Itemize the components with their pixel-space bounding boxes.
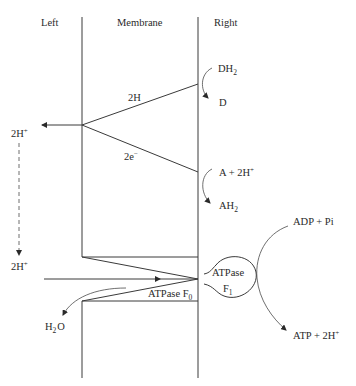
proton-top-label: 2H+ [11, 127, 28, 139]
region-label-left: Left [41, 17, 59, 28]
electron-transfer-line [82, 125, 198, 172]
proton-bottom-label: 2H+ [11, 260, 28, 272]
atpase-f1-name: F1 [223, 283, 233, 297]
donor-reactant: DH2 [218, 63, 237, 77]
f0-channel-upper-taper [82, 257, 198, 279]
water-label: H2O [45, 321, 65, 335]
hydrogen-transfer-line [82, 84, 198, 125]
hydrogen-transfer-label: 2H [128, 92, 141, 103]
atpase-f1-label: ATPase [212, 267, 244, 278]
atpase-f0-label: ATPase F0 [148, 288, 193, 302]
region-label-right: Right [214, 17, 237, 28]
region-label-membrane: Membrane [117, 17, 163, 28]
donor-oxidation-arrow [202, 68, 212, 98]
acceptor-product: AH2 [219, 200, 238, 214]
acceptor-reactant: A + 2H+ [219, 166, 254, 178]
acceptor-reduction-arrow [203, 169, 212, 203]
phosphorylation-substrate: ADP + Pi [293, 216, 334, 227]
electron-transfer-label: 2e− [124, 150, 138, 162]
membrane-diagram: Left Membrane Right 2H 2e− DH2 D A + 2H+… [0, 0, 356, 386]
phosphorylation-product: ATP + 2H+ [293, 329, 339, 341]
donor-product: D [219, 97, 227, 108]
phosphorylation-arrow [257, 226, 288, 330]
